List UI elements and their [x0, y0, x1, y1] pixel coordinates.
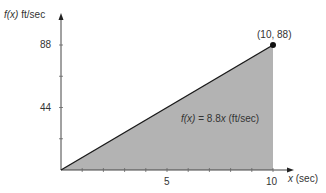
x-tick-label-10: 10 — [266, 176, 277, 188]
y-axis-arrow-icon — [59, 13, 64, 20]
function-label-unit: (ft/sec) — [226, 113, 259, 124]
x-axis-arrow-icon — [287, 168, 294, 173]
x-tick-label-5: 5 — [164, 176, 170, 188]
function-label-eq: = 8.8 — [195, 113, 220, 124]
x-axis-label: x (sec) — [288, 173, 318, 185]
x-axis-label-unit: (sec) — [293, 173, 318, 184]
y-tick-label-44: 44 — [40, 102, 51, 114]
data-point-marker — [270, 42, 276, 48]
y-tick-label-88: 88 — [40, 39, 51, 51]
y-axis-label-var: f(x) — [4, 9, 18, 20]
function-label-fx: f(x) — [181, 113, 195, 124]
y-axis-label: f(x) ft/sec — [4, 9, 45, 21]
y-axis-label-unit: ft/sec — [18, 9, 45, 20]
function-label: f(x) = 8.8x (ft/sec) — [181, 113, 259, 125]
point-annotation: (10, 88) — [257, 29, 291, 41]
